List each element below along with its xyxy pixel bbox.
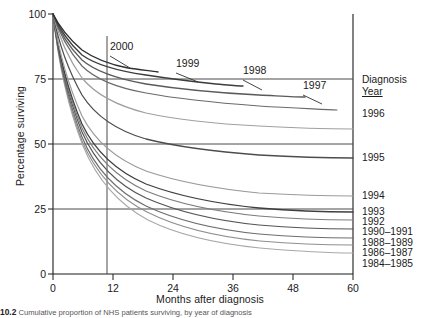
legend: Diagnosis Year — [362, 74, 431, 97]
legend-item-1984-1985: 1984–1985 — [362, 258, 413, 269]
y-tick-label-100: 100 — [26, 8, 46, 20]
annotation-2000: 2000 — [110, 40, 133, 52]
x-tick-label-60: 60 — [343, 282, 363, 294]
annotation-1998: 1998 — [243, 64, 266, 76]
legend-item-1995: 1995 — [362, 152, 385, 163]
y-tick-label-0: 0 — [26, 268, 46, 280]
annotation-1997: 1997 — [303, 79, 326, 91]
y-ticks — [48, 14, 53, 274]
leader-1997 — [303, 95, 322, 104]
legend-item-1994: 1994 — [362, 190, 385, 201]
figure-caption-text: Cumulative proportion of NHS patients su… — [18, 308, 251, 317]
figure-number: 10.2 — [0, 307, 16, 317]
y-tick-label-50: 50 — [26, 138, 46, 150]
survival-curves — [53, 14, 353, 253]
legend-title-line1: Diagnosis — [362, 74, 407, 85]
curve-1996 — [53, 14, 353, 129]
legend-item-1996: 1996 — [362, 108, 385, 119]
curve-1988-1989 — [53, 14, 353, 238]
legend-item-1986-1987: 1986–1987 — [362, 247, 413, 258]
x-ticks — [53, 274, 353, 280]
y-tick-label-75: 75 — [26, 73, 46, 85]
curve-1986-1987 — [53, 14, 353, 245]
curve-2000 — [53, 14, 158, 72]
curve-1984-1985 — [53, 14, 353, 253]
survival-chart: 100 75 50 25 0 0 12 24 36 48 60 Percenta… — [0, 0, 431, 318]
curve-1994 — [53, 14, 353, 196]
leader-1998 — [243, 80, 262, 90]
legend-item-1990-1991: 1990–1991 — [362, 226, 413, 237]
annotation-1999: 1999 — [176, 57, 199, 69]
y-tick-label-25: 25 — [26, 203, 46, 215]
x-tick-label-0: 0 — [43, 282, 63, 294]
y-axis-title: Percentage surviving — [14, 66, 26, 206]
figure-caption: 10.2 Cumulative proportion of NHS patien… — [0, 307, 431, 318]
legend-title: Diagnosis Year — [362, 74, 431, 97]
x-axis-title: Months after diagnosis — [120, 293, 300, 305]
reference-lines — [53, 36, 353, 274]
legend-title-line2: Year — [362, 86, 383, 97]
curve-1992 — [53, 14, 353, 220]
